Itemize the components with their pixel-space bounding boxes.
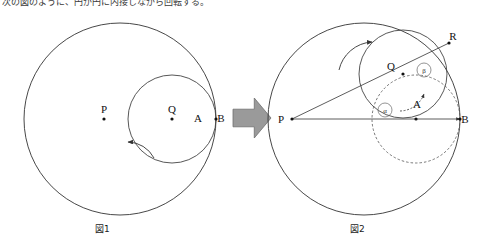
figure-2-caption: 図2 [350,223,365,235]
rotation-arrow-cw [339,42,372,70]
label-b: B [461,113,468,125]
figure-stage: 次の図のように、円が円に内接しながら回転する。 P Q A B [0,0,480,247]
point-q-dot [401,72,404,75]
label-p: P [278,113,284,125]
label-a: A [413,98,421,110]
label-r: R [449,30,457,42]
figure-1-caption: 図1 [95,223,110,235]
radius-line-pr [292,43,449,119]
point-p-dot [290,117,293,120]
label-q: Q [387,60,395,72]
angle-beta-group: β [417,63,431,77]
angle-alpha-label: α [383,107,387,115]
point-center-dot [414,117,417,120]
angle-beta-label: β [422,67,426,75]
angle-alpha-group: α [378,103,392,117]
figure-2: P Q R A B α β [0,0,480,247]
